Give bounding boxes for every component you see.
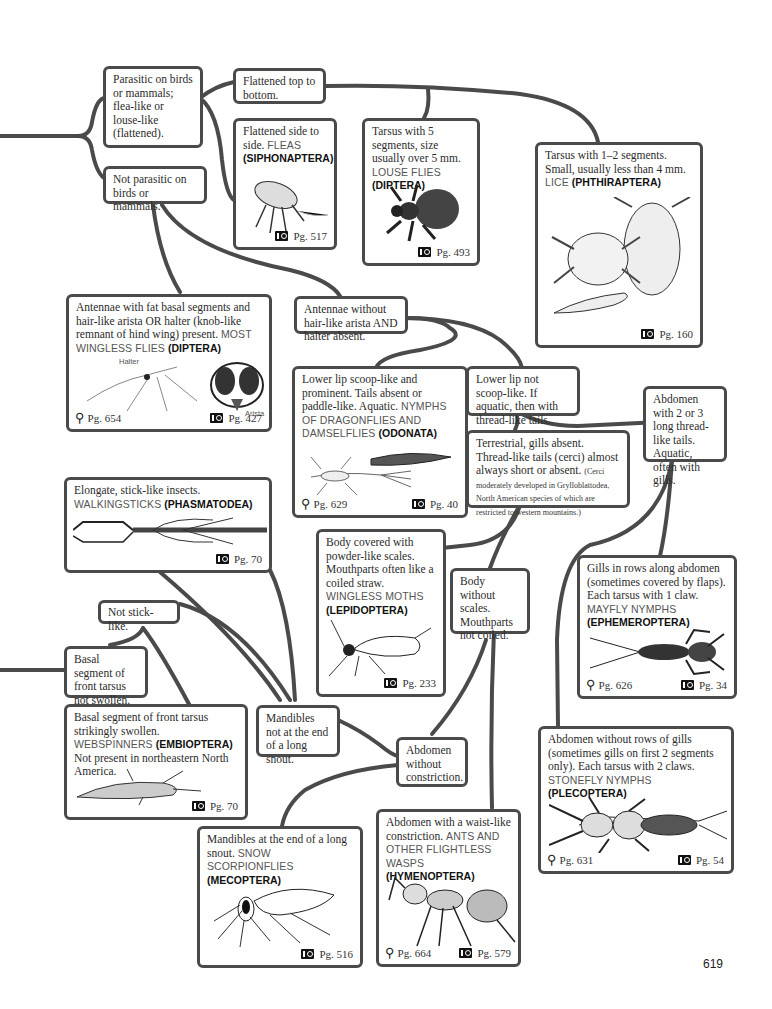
node-abdomen-without-constriction: Abdomen without constriction. xyxy=(396,737,468,787)
node-odonata: Lower lip scoop-like and prominent. Tail… xyxy=(292,366,468,518)
node-antennae-without-arista: Antennae without hair-like arista AND ha… xyxy=(294,296,408,334)
camera-icon xyxy=(459,948,472,958)
common-name: MAYFLY NYMPHS xyxy=(587,603,676,615)
node-hymenoptera: Abdomen with a waist-like constriction. … xyxy=(376,809,521,967)
key-reference[interactable]: ⚲ Pg. 629 xyxy=(301,498,347,512)
camera-icon xyxy=(412,499,425,509)
webspinner-illustration xyxy=(73,769,203,805)
key-reference[interactable]: ⚲ Pg. 626 xyxy=(586,679,632,693)
node-text: Gills in rows along abdomen (sometimes c… xyxy=(587,562,726,601)
node-stonefly: Abdomen without rows of gills (sometimes… xyxy=(538,726,734,874)
photo-reference[interactable]: Pg. 233 xyxy=(384,677,436,691)
node-flattened-top-to-bottom: Flattened top to bottom. xyxy=(233,68,326,104)
order-name: (PHASMATODEA) xyxy=(164,498,252,510)
key-reference[interactable]: ⚲ Pg. 654 xyxy=(75,412,121,426)
node-wingless-moths: Body covered with powder-like scales. Mo… xyxy=(316,529,446,697)
camera-icon xyxy=(210,413,223,423)
moth-illustration xyxy=(325,620,435,676)
stonefly-nymph-illustration xyxy=(549,795,729,853)
common-name: LICE xyxy=(545,176,572,188)
node-fleas: Flattened side to side. FLEAS (SIPHONAPT… xyxy=(233,118,337,250)
order-name: (EMBIOPTERA) xyxy=(156,738,233,750)
node-text: Tarsus with 5 segments, size usually ove… xyxy=(372,125,461,164)
node-parasitic: Parasitic on birds or mammals; flea-like… xyxy=(103,66,203,148)
node-not-stick-like: Not stick-like. xyxy=(98,600,180,624)
node-text: Flattened top to bottom. xyxy=(243,75,315,101)
camera-icon xyxy=(678,855,691,865)
camera-icon xyxy=(384,678,397,688)
wingless-fly-illustration xyxy=(77,361,267,413)
node-text: Mandibles at the end of a long snout. xyxy=(207,833,347,859)
order-name: (SIPHONAPTERA) xyxy=(243,152,333,164)
walkingstick-illustration xyxy=(73,512,267,548)
photo-reference[interactable]: Pg. 54 xyxy=(678,854,724,868)
louse-fly-illustration xyxy=(379,181,469,245)
node-basal-not-swollen: Basal segment of front tarsus not swolle… xyxy=(64,646,148,698)
key-icon: ⚲ xyxy=(547,855,557,865)
node-text: Abdomen without constriction. xyxy=(406,744,463,783)
camera-icon xyxy=(216,554,229,564)
node-text: Basal segment of front tarsus not swolle… xyxy=(74,653,130,706)
node-wingless-flies: Antennae with fat basal segments and hai… xyxy=(66,294,272,432)
key-reference[interactable]: ⚲ Pg. 631 xyxy=(547,854,593,868)
odonata-illustration xyxy=(301,439,461,497)
node-abdomen-long-tails: Abdomen with 2 or 3 long thread-like tai… xyxy=(643,386,727,462)
common-name: LOUSE FLIES xyxy=(372,166,441,178)
node-mayfly: Gills in rows along abdomen (sometimes c… xyxy=(577,555,737,699)
lice-illustration xyxy=(544,197,696,323)
node-lice: Tarsus with 1–2 segments. Small, usually… xyxy=(535,142,703,348)
key-icon: ⚲ xyxy=(586,680,596,690)
key-reference[interactable]: ⚲ Pg. 664 xyxy=(385,947,431,961)
photo-reference[interactable]: Pg. 70 xyxy=(216,553,262,567)
key-icon: ⚲ xyxy=(75,413,85,423)
photo-reference[interactable]: Pg. 579 xyxy=(459,947,511,961)
node-text: Parasitic on birds or mammals; flea-like… xyxy=(113,73,193,139)
key-icon: ⚲ xyxy=(385,948,395,958)
common-name: WALKINGSTICKS xyxy=(74,498,164,510)
camera-icon xyxy=(192,801,205,811)
node-text: Lower lip not scoop-like. If aquatic, th… xyxy=(476,373,558,426)
photo-reference[interactable]: Pg. 493 xyxy=(418,246,470,260)
node-louse-flies: Tarsus with 5 segments, size usually ove… xyxy=(362,118,480,266)
order-name: (ODONATA) xyxy=(378,427,437,439)
photo-reference[interactable]: Pg. 517 xyxy=(275,230,327,244)
camera-icon xyxy=(681,680,694,690)
node-text: Elongate, stick-like insects. xyxy=(74,484,200,496)
node-mandibles-not-snout: Mandibles not at the end of a long snout… xyxy=(256,705,340,757)
common-name: WEBSPINNERS xyxy=(74,738,156,750)
camera-icon xyxy=(418,247,431,257)
node-lower-lip-not-scoop: Lower lip not scoop-like. If aquatic, th… xyxy=(466,366,580,416)
node-walkingsticks: Elongate, stick-like insects. WALKINGSTI… xyxy=(64,477,272,573)
camera-icon xyxy=(275,231,288,241)
camera-icon xyxy=(301,949,314,959)
node-text: Mandibles not at the end of a long snout… xyxy=(266,712,328,765)
node-text: Basal segment of front tarsus strikingly… xyxy=(74,711,208,737)
camera-icon xyxy=(641,329,654,339)
key-icon: ⚲ xyxy=(301,499,311,509)
mayfly-nymph-illustration xyxy=(590,628,730,676)
photo-reference[interactable]: Pg. 34 xyxy=(681,679,727,693)
page-number: 619 xyxy=(703,957,723,971)
node-text: Body without scales. Mouthparts not coil… xyxy=(460,575,513,641)
photo-reference[interactable]: Pg. 40 xyxy=(412,498,458,512)
node-not-parasitic: Not parasitic on birds or mammals. xyxy=(103,166,207,204)
ant-illustration xyxy=(387,876,517,948)
photo-reference[interactable]: Pg. 70 xyxy=(192,800,238,814)
common-name: STONEFLY NYMPHS xyxy=(548,774,652,786)
order-name: (EPHEMEROPTERA) xyxy=(587,616,690,628)
scorpionfly-illustration xyxy=(210,881,350,951)
order-name: (PHTHIRAPTERA) xyxy=(572,176,661,188)
photo-reference[interactable]: Pg. 427 xyxy=(210,412,262,426)
order-name: (DIPTERA) xyxy=(168,342,221,354)
flea-illustration xyxy=(242,177,332,237)
photo-reference[interactable]: Pg. 160 xyxy=(641,328,693,342)
node-mecoptera: Mandibles at the end of a long snout. SN… xyxy=(197,826,363,968)
order-name: (LEPIDOPTERA) xyxy=(326,604,408,616)
node-terrestrial: Terrestrial, gills absent. Thread-like t… xyxy=(466,430,630,508)
node-body-without-scales: Body without scales. Mouthparts not coil… xyxy=(450,568,530,634)
node-text: Body covered with powder-like scales. Mo… xyxy=(326,536,434,589)
node-webspinners: Basal segment of front tarsus strikingly… xyxy=(64,704,248,820)
common-name: FLEAS xyxy=(267,139,301,151)
photo-reference[interactable]: Pg. 516 xyxy=(301,948,353,962)
node-text: Tarsus with 1–2 segments. Small, usually… xyxy=(545,149,686,175)
